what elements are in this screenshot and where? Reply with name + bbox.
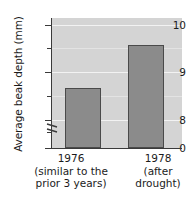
x-ticklabel-sub2-1978: drought) xyxy=(124,177,192,190)
x-ticklabel-sub2-1976: prior 3 years) xyxy=(20,177,122,190)
bar-1976 xyxy=(65,88,101,148)
gridline-10 xyxy=(52,25,182,26)
x-ticklabel-year-1978: 1978 xyxy=(124,152,192,165)
x-ticklabel-sub1-1976: (similar to the xyxy=(20,165,122,178)
axis-break-icon xyxy=(44,121,60,139)
y-tick-8-5 xyxy=(47,96,51,97)
y-axis-title: Average beak depth (mm) xyxy=(12,14,24,154)
y-ticklabel-8: 8 xyxy=(179,114,186,126)
y-ticklabel-9: 9 xyxy=(179,66,186,78)
x-tick-group-1978: 1978 (after drought) xyxy=(124,152,192,190)
bar-chart-figure: Average beak depth (mm) 10 9 8 0 1976 (s… xyxy=(0,0,194,210)
y-tick-9-5 xyxy=(47,48,51,49)
bar-1978 xyxy=(128,45,164,148)
x-tick-group-1976: 1976 (similar to the prior 3 years) xyxy=(20,152,122,190)
y-tick-9 xyxy=(45,72,51,73)
x-axis xyxy=(51,148,182,149)
x-ticklabel-year-1976: 1976 xyxy=(20,152,122,165)
y-tick-10 xyxy=(45,25,51,26)
x-ticklabel-sub1-1978: (after xyxy=(124,165,192,178)
plot-area xyxy=(52,18,182,148)
y-ticklabel-10: 10 xyxy=(173,19,186,31)
